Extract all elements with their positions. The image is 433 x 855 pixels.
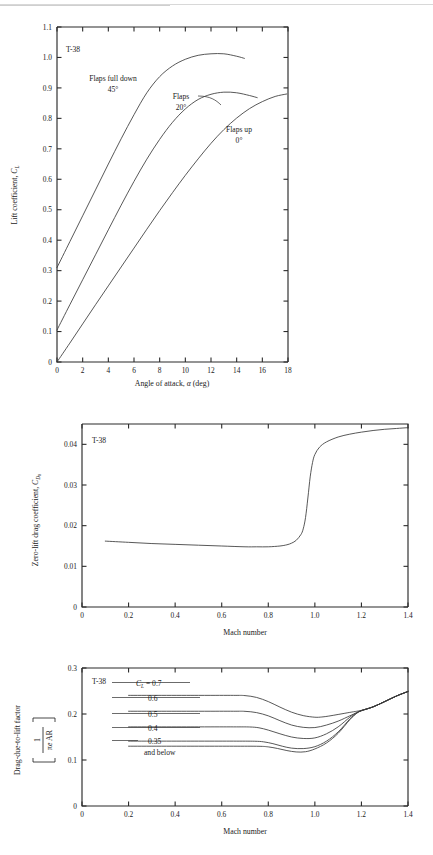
y-tick-label: 0.03 xyxy=(64,481,77,490)
x-tick-label: 0.6 xyxy=(217,810,227,819)
chart2-curves xyxy=(105,428,408,547)
chart1-x-axis-title: Angle of attack, α (deg) xyxy=(135,379,210,388)
chart1-annot-flaps-up-line1: Flaps up xyxy=(226,125,252,134)
x-tick-label: 0.4 xyxy=(171,810,181,819)
chart3-y-axis-fraction: 1 πe AR xyxy=(33,718,55,762)
x-tick-label: 1.4 xyxy=(403,810,413,819)
x-tick-label: 4 xyxy=(106,366,110,375)
x-tick-label: 0 xyxy=(80,810,84,819)
x-tick-label: 0.8 xyxy=(264,611,274,620)
chart2-axis-lines xyxy=(82,424,408,607)
y-tick-label: 0.9 xyxy=(43,84,53,93)
chart3-axis-frame xyxy=(82,668,408,806)
x-tick-label: 1.2 xyxy=(357,611,367,620)
chart1-axes: 02468101214161800.10.20.30.40.50.60.70.8… xyxy=(43,23,292,375)
chart-zero-lift-drag-svg: 00.20.40.60.81.01.21.400.010.020.030.04 … xyxy=(0,400,433,645)
chart3-legend-label-0.4: 0.4 xyxy=(148,724,158,733)
chart3-bracket-right xyxy=(33,718,55,722)
chart1-annot-flaps-full-down-line1: Flaps full down xyxy=(89,74,137,83)
chart1-annot-flaps-20-line2: 20° xyxy=(176,103,187,112)
chart2-axes: 00.20.40.60.81.01.21.400.010.020.030.04 xyxy=(64,424,413,620)
chart3-legend-note: and below xyxy=(144,748,176,757)
chart1-annot-flaps-20-line1: Flaps xyxy=(173,92,190,101)
y-tick-label: 0.1 xyxy=(68,756,78,765)
chart3-x-axis-title: Mach number xyxy=(223,827,267,836)
x-tick-label: 0.2 xyxy=(124,810,134,819)
figure-lift-coefficient: 02468101214161800.10.20.30.40.50.60.70.8… xyxy=(0,10,433,395)
x-tick-label: 0.4 xyxy=(171,611,181,620)
chart3-bracket-left xyxy=(33,758,55,762)
y-tick-label: 0.3 xyxy=(68,664,78,673)
chart3-fraction-numerator: 1 xyxy=(33,738,42,742)
series-curve-2 xyxy=(129,691,408,738)
chart1-title: T-38 xyxy=(66,45,80,54)
y-tick-label: 0.02 xyxy=(64,521,77,530)
chart3-legend-label-0.6: 0.6 xyxy=(148,694,158,703)
series-curve-0 xyxy=(57,54,244,268)
chart2-x-axis-title: Mach number xyxy=(223,628,267,637)
page-top-rule-secondary xyxy=(0,5,170,6)
x-tick-label: 2 xyxy=(81,366,85,375)
x-tick-label: 10 xyxy=(182,366,190,375)
y-tick-label: 0.3 xyxy=(43,266,53,275)
series-curve-2 xyxy=(57,94,287,362)
y-tick-label: 0.4 xyxy=(43,236,53,245)
chart-drag-due-to-lift-svg: 00.20.40.60.81.01.21.400.10.20.3 T-38 CL… xyxy=(0,645,433,855)
y-tick-label: 0 xyxy=(48,358,52,367)
chart3-legend-label-0.5: 0.5 xyxy=(148,710,158,719)
x-tick-label: 14 xyxy=(233,366,241,375)
y-tick-label: 0 xyxy=(73,603,77,612)
x-tick-label: 1.0 xyxy=(310,611,320,620)
figure-zero-lift-drag: 00.20.40.60.81.01.21.400.010.020.030.04 … xyxy=(0,400,433,645)
x-tick-label: 1.4 xyxy=(403,611,413,620)
chart3-legend-prefix: CL = 0.7 xyxy=(136,679,162,689)
x-tick-label: 0.2 xyxy=(124,611,134,620)
y-tick-label: 0.6 xyxy=(43,175,53,184)
x-tick-label: 1.0 xyxy=(310,810,320,819)
chart2-y-axis-title: Zero-lift drag coefficient, CD0 xyxy=(31,474,42,566)
x-tick-label: 6 xyxy=(132,366,136,375)
y-tick-label: 0.2 xyxy=(43,297,53,306)
x-tick-label: 0.6 xyxy=(217,611,227,620)
y-tick-label: 1.0 xyxy=(43,53,53,62)
y-tick-label: 0.1 xyxy=(43,327,53,336)
chart1-annot-flaps-up-line2: 0° xyxy=(236,136,243,145)
series-curve-3 xyxy=(129,691,408,748)
figure-drag-due-to-lift: 00.20.40.60.81.01.21.400.10.20.3 T-38 CL… xyxy=(0,645,433,855)
chart3-title: T-38 xyxy=(92,677,106,686)
y-tick-label: 0.7 xyxy=(43,145,53,154)
y-tick-label: 0.8 xyxy=(43,114,53,123)
x-tick-label: 1.2 xyxy=(357,810,367,819)
y-tick-label: 0.2 xyxy=(68,710,78,719)
chart3-axis-lines xyxy=(82,668,408,806)
y-tick-label: 0.01 xyxy=(64,562,77,571)
y-tick-label: 1.1 xyxy=(43,23,53,32)
chart3-y-axis-title: Drag-due-to-lift factor xyxy=(13,705,22,775)
chart3-fraction-denominator: πe AR xyxy=(45,729,54,750)
chart1-annot-flaps-full-down-line2: 45° xyxy=(108,85,119,94)
x-tick-label: 18 xyxy=(284,366,292,375)
series-curve-0 xyxy=(105,428,408,547)
y-tick-label: 0.04 xyxy=(64,440,77,449)
x-tick-label: 0 xyxy=(80,611,84,620)
chart3-legend-label-0.35: 0.35 xyxy=(148,737,161,746)
x-tick-label: 0.8 xyxy=(264,810,274,819)
chart2-axis-frame xyxy=(82,424,408,607)
x-tick-label: 8 xyxy=(158,366,162,375)
x-tick-label: 16 xyxy=(259,366,267,375)
chart1-y-axis-title: Lift coefficient, CL xyxy=(10,166,20,225)
chart-lift-coefficient-svg: 02468101214161800.10.20.30.40.50.60.70.8… xyxy=(0,10,433,395)
y-tick-label: 0 xyxy=(73,802,77,811)
chart2-title: T-38 xyxy=(92,436,106,445)
x-tick-label: 0 xyxy=(55,366,59,375)
x-tick-label: 12 xyxy=(207,366,215,375)
y-tick-label: 0.5 xyxy=(43,205,53,214)
